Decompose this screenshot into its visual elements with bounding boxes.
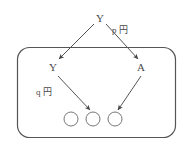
node-label-left: Y [49, 62, 57, 73]
bottom-circle-3 [108, 112, 122, 126]
bottom-circle-1 [64, 112, 78, 126]
node-label-top: Y [96, 13, 104, 24]
arrow-right-to-circle-1 [118, 76, 141, 110]
diagram-canvas: Y Y A p 円 q 円 [0, 0, 190, 149]
diagram-vector-layer [0, 0, 190, 149]
edge-label-q-yen: q 円 [36, 88, 52, 97]
node-label-right: A [137, 62, 145, 73]
edge-label-p-yen: p 円 [112, 26, 128, 35]
bottom-circle-2 [86, 112, 100, 126]
arrow-left-to-circle-2 [58, 76, 90, 110]
arrow-top-to-left [59, 24, 94, 59]
